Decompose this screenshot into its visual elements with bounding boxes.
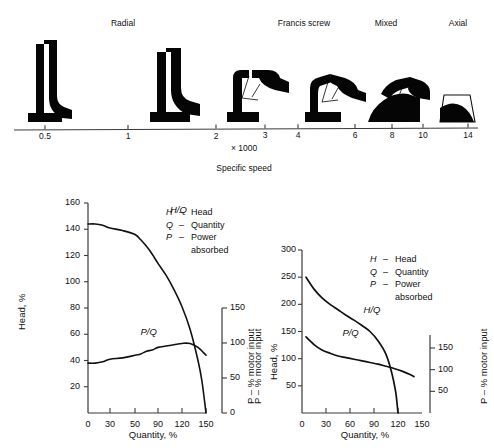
- impeller-francis-screw: [305, 74, 366, 122]
- legend-symbol: P: [370, 278, 380, 291]
- legend-dash: [179, 244, 188, 257]
- legend-symbol: Q: [166, 219, 176, 232]
- left-y-tick-label-80: 80: [48, 302, 80, 312]
- right-chart-outer-left-axis-label: P – % motor input: [252, 329, 263, 404]
- legend-row: absorbed: [166, 244, 229, 257]
- left-x-tick-label-150: 150: [192, 419, 220, 429]
- right-y2-tick-label-50: 50: [438, 385, 464, 395]
- left-y-axis-label: Head, %: [16, 294, 27, 330]
- legend-symbol: P: [166, 231, 176, 244]
- right-y-tick-label-150: 150: [266, 326, 296, 336]
- axis-caption-specific-speed: Specific speed: [0, 163, 488, 173]
- category-label-axial: Axial: [418, 18, 494, 28]
- legend-text: Quantity: [191, 219, 225, 232]
- legend-text: Quantity: [395, 266, 429, 279]
- left-y-tick-label-120: 120: [48, 250, 80, 260]
- right-x-tick-label-150: 150: [408, 419, 436, 429]
- right-y-tick-label-300: 300: [266, 244, 296, 254]
- specific-speed-tick-label-1: 1: [114, 131, 142, 141]
- right-y-tick-label-250: 250: [266, 271, 296, 281]
- left-y-tick-label-40: 40: [48, 355, 80, 365]
- left-y2-tick-marks: [222, 308, 227, 413]
- right-x-tick-marks: [326, 408, 398, 413]
- right-curve-label-pq: P/Q: [342, 327, 358, 338]
- specific-speed-tick-label-0-5: 0.5: [31, 131, 59, 141]
- legend-text: Head: [191, 206, 213, 219]
- specific-speed-tick-label-2: 2: [202, 131, 230, 141]
- legend-dash: –: [179, 219, 188, 232]
- impeller-radial-wide: [150, 48, 200, 122]
- category-label-francis-screw: Francis screw: [264, 18, 344, 28]
- axis-caption-multiplier: × 1000: [0, 143, 488, 153]
- legend-text: absorbed: [191, 244, 229, 257]
- right-y2-axis-label: P – % motor input: [478, 329, 489, 404]
- left-curve-pq: [88, 343, 206, 363]
- impeller-axial-flow: [440, 95, 475, 122]
- legend-row: absorbed: [370, 291, 433, 304]
- legend-dash: –: [383, 278, 392, 291]
- right-y-tick-label-50: 50: [266, 380, 296, 390]
- legend-text: Power: [191, 231, 217, 244]
- impeller-francis: [227, 70, 289, 122]
- specific-speed-tick-label-4: 4: [284, 130, 312, 140]
- chart-axial-flow-pump: [238, 230, 488, 448]
- left-x-tick-marks: [110, 408, 206, 413]
- left-x-axis-label: Quantity, %: [88, 429, 218, 440]
- category-label-mixed: Mixed: [346, 18, 426, 28]
- right-y2-tick-marks: [430, 348, 435, 391]
- left-curve-label-pq: P/Q: [141, 326, 157, 337]
- left-chart-legend: H–HeadQ–QuantityP–Powerabsorbed: [166, 206, 229, 256]
- specific-speed-tick-label-8: 8: [378, 130, 406, 140]
- impeller-mixed-flow: [368, 77, 430, 122]
- right-y-axis-label: Head, %: [268, 344, 279, 380]
- specific-speed-tick-label-6: 6: [341, 130, 369, 140]
- specific-speed-tick-label-10: 10: [409, 130, 437, 140]
- legend-symbol: H: [166, 206, 176, 219]
- legend-symbol: [166, 244, 176, 257]
- legend-symbol: Q: [370, 266, 380, 279]
- right-x-axis-label: Quantity, %: [300, 429, 430, 440]
- legend-row: H–Head: [370, 253, 433, 266]
- legend-dash: [383, 291, 392, 304]
- left-y-tick-label-160: 160: [48, 197, 80, 207]
- right-curve-label-hq: H/Q: [364, 304, 381, 315]
- category-label-radial: Radial: [83, 18, 163, 28]
- right-y-tick-label-200: 200: [266, 298, 296, 308]
- legend-dash: –: [179, 231, 188, 244]
- legend-symbol: H: [370, 253, 380, 266]
- left-y-tick-label-20: 20: [48, 381, 80, 391]
- legend-text: Head: [395, 253, 417, 266]
- legend-symbol: [370, 291, 380, 304]
- left-y-tick-label-60: 60: [48, 328, 80, 338]
- legend-text: Power: [395, 278, 421, 291]
- specific-speed-tick-label-3: 3: [251, 130, 279, 140]
- legend-row: Q–Quantity: [370, 266, 433, 279]
- legend-dash: –: [383, 266, 392, 279]
- right-y2-tick-label-150: 150: [438, 342, 464, 352]
- legend-row: P–Power: [166, 231, 229, 244]
- right-y-tick-marks: [298, 250, 302, 386]
- legend-text: absorbed: [395, 291, 433, 304]
- impeller-radial-narrow: [28, 40, 72, 122]
- left-x-tick-label-30: 30: [96, 419, 124, 429]
- specific-speed-tick-label-14: 14: [454, 130, 482, 140]
- right-curve-pq: [306, 337, 414, 377]
- legend-dash: –: [383, 253, 392, 266]
- legend-row: Q–Quantity: [166, 219, 229, 232]
- left-y-tick-label-100: 100: [48, 276, 80, 286]
- right-y2-tick-label-100: 100: [438, 364, 464, 374]
- left-y-tick-label-140: 140: [48, 223, 80, 233]
- legend-row: H–Head: [166, 206, 229, 219]
- legend-row: P–Power: [370, 278, 433, 291]
- right-chart-legend: H–HeadQ–QuantityP–Powerabsorbed: [370, 253, 433, 303]
- legend-dash: –: [179, 206, 188, 219]
